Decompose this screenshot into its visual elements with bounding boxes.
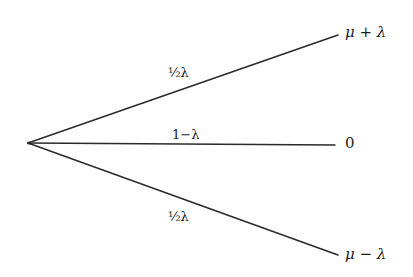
middle-branch-line bbox=[28, 143, 335, 145]
upper-branch-probability-label: ½λ bbox=[168, 66, 189, 79]
lower-branch-line bbox=[28, 143, 338, 255]
lower-outcome-label: μ − λ bbox=[345, 247, 386, 262]
lower-branch-probability-label: ½λ bbox=[168, 210, 189, 223]
root-node bbox=[27, 141, 30, 144]
middle-branch-probability-label: 1−λ bbox=[172, 128, 199, 141]
middle-outcome-label: 0 bbox=[345, 136, 355, 151]
upper-outcome-label: μ + λ bbox=[345, 25, 386, 40]
